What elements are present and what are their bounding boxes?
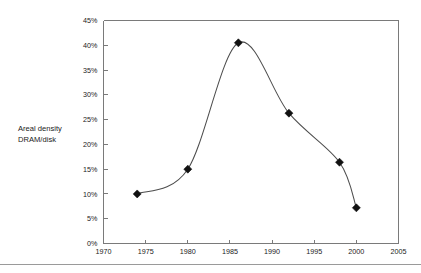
- y-tick-label: 5%: [87, 214, 98, 223]
- chart-figure: 0%5%10%15%20%25%30%35%40%45% 19701975198…: [0, 0, 421, 273]
- x-tick-label: 1995: [306, 247, 322, 256]
- figure-background: [0, 0, 421, 273]
- y-tick-label: 20%: [83, 140, 98, 149]
- y-tick-label: 10%: [83, 190, 98, 199]
- x-tick-label: 1985: [222, 247, 238, 256]
- y-tick-label: 25%: [83, 115, 98, 124]
- y-tick-label: 30%: [83, 90, 98, 99]
- y-axis-label-line-2: DRAM/disk: [18, 135, 56, 144]
- y-axis-label-line-1: Areal density: [18, 124, 62, 133]
- x-tick-label: 1970: [96, 247, 112, 256]
- x-tick-label: 1980: [180, 247, 196, 256]
- y-tick-label: 45%: [83, 16, 98, 25]
- x-tick-label: 1975: [138, 247, 154, 256]
- y-tick-label: 35%: [83, 66, 98, 75]
- y-tick-label: 40%: [83, 41, 98, 50]
- x-tick-label: 2000: [348, 247, 364, 256]
- x-tick-label: 2005: [391, 247, 407, 256]
- x-tick-label: 1990: [264, 247, 280, 256]
- y-tick-label: 15%: [83, 165, 98, 174]
